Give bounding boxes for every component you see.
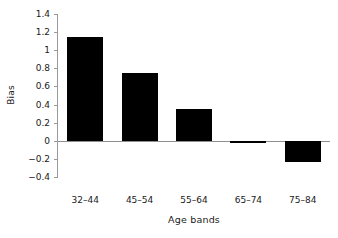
x-axis-tick-label: 75–84: [289, 196, 316, 205]
y-axis-tick-mark: [54, 86, 58, 87]
y-axis-tick-label: 1: [44, 46, 50, 55]
x-axis-tick-label: 65–74: [235, 196, 262, 205]
bar: [230, 141, 266, 143]
y-axis-tick-labels: 1.41.210.80.60.40.20−0.2−0.4: [20, 0, 54, 190]
y-axis-tick-mark: [54, 14, 58, 15]
y-axis-title: Bias: [0, 0, 22, 190]
y-axis-tick-label: 0.6: [36, 82, 50, 91]
x-axis-tick-labels: 32–4445–5455–6465–7475–84: [58, 196, 330, 210]
y-axis-tick-mark: [54, 177, 58, 178]
y-axis-tick-label: 0: [44, 136, 50, 145]
plot-area: [58, 14, 330, 177]
y-axis-tick-label: 0.2: [36, 118, 50, 127]
y-axis-tick-mark: [54, 159, 58, 160]
y-axis-tick-label: −0.2: [28, 154, 50, 163]
x-axis-tick-label: 55–64: [180, 196, 207, 205]
y-axis-tick-label: 1.4: [36, 10, 50, 19]
y-axis-tick-label: 0.8: [36, 64, 50, 73]
y-axis-tick-mark: [54, 68, 58, 69]
y-axis-spine: [57, 14, 58, 177]
y-axis-tick-label: 1.2: [36, 28, 50, 37]
y-axis-tick-mark: [54, 123, 58, 124]
bar: [285, 141, 321, 162]
bar-chart-figure: Bias 1.41.210.80.60.40.20−0.2−0.4 32–444…: [0, 0, 338, 238]
y-axis-tick-mark: [54, 50, 58, 51]
bar: [67, 37, 103, 141]
x-axis-tick-label: 45–54: [126, 196, 153, 205]
x-axis-title: Age bands: [58, 214, 330, 225]
y-axis-tick-label: 0.4: [36, 100, 50, 109]
x-axis-tick-label: 32–44: [71, 196, 98, 205]
y-axis-tick-mark: [54, 32, 58, 33]
y-axis-tick-mark: [54, 105, 58, 106]
bar: [122, 73, 158, 141]
y-axis-tick-label: −0.4: [28, 173, 50, 182]
y-axis-tick-mark: [54, 141, 58, 142]
bar: [176, 109, 212, 141]
y-axis-title-text: Bias: [6, 85, 16, 105]
